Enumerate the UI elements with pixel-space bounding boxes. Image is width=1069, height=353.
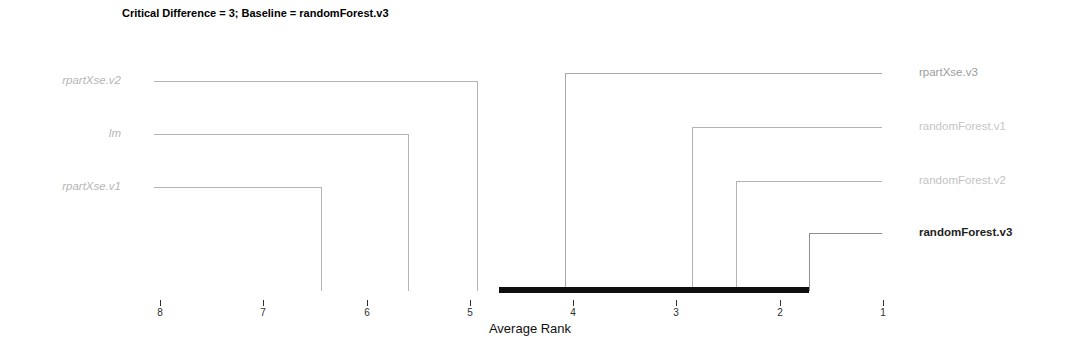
- axis-tick-3: [676, 300, 677, 306]
- rank-line-randomForest-v3: [809, 233, 882, 234]
- axis-tick-4: [573, 300, 574, 306]
- drop-line-lm: [408, 134, 409, 291]
- rank-line-randomForest-v2: [736, 181, 882, 182]
- axis-tick-7: [263, 300, 264, 306]
- axis-tick-label-8: 8: [150, 307, 170, 318]
- model-label-lm: lm: [28, 126, 121, 141]
- axis-tick-5: [470, 300, 471, 306]
- rank-line-rpartXse-v1: [154, 187, 321, 188]
- drop-line-randomForest-v3: [809, 233, 810, 291]
- rank-line-rpartXse-v2: [154, 81, 477, 82]
- axis-tick-1: [883, 300, 884, 306]
- axis-tick-label-2: 2: [770, 307, 790, 318]
- model-label-rpartXse-v1: rpartXse.v1: [28, 179, 121, 194]
- axis-tick-label-5: 5: [460, 307, 480, 318]
- axis-tick-2: [780, 300, 781, 306]
- critical-difference-bar: [499, 287, 809, 293]
- model-label-rpartXse-v2: rpartXse.v2: [28, 73, 121, 88]
- model-label-randomForest-v3: randomForest.v3: [919, 225, 1064, 240]
- axis-tick-6: [367, 300, 368, 306]
- drop-line-rpartXse-v3: [565, 73, 566, 291]
- x-axis-title: Average Rank: [489, 321, 571, 336]
- rank-line-rpartXse-v3: [565, 73, 882, 74]
- axis-tick-label-6: 6: [357, 307, 377, 318]
- drop-line-rpartXse-v2: [477, 81, 478, 291]
- cd-diagram-canvas: Critical Difference = 3; Baseline = rand…: [0, 0, 1069, 353]
- drop-line-randomForest-v2: [736, 181, 737, 291]
- model-label-randomForest-v2: randomForest.v2: [919, 173, 1064, 188]
- axis-tick-8: [160, 300, 161, 306]
- plot-area: randomForest.v3randomForest.v2randomFore…: [0, 0, 1069, 353]
- axis-tick-label-4: 4: [563, 307, 583, 318]
- model-label-randomForest-v1: randomForest.v1: [919, 119, 1064, 134]
- drop-line-rpartXse-v1: [321, 187, 322, 291]
- axis-tick-label-1: 1: [873, 307, 893, 318]
- drop-line-randomForest-v1: [692, 127, 693, 291]
- axis-tick-label-7: 7: [253, 307, 273, 318]
- rank-line-randomForest-v1: [692, 127, 882, 128]
- axis-tick-label-3: 3: [666, 307, 686, 318]
- model-label-rpartXse-v3: rpartXse.v3: [919, 65, 1064, 80]
- rank-line-lm: [154, 134, 408, 135]
